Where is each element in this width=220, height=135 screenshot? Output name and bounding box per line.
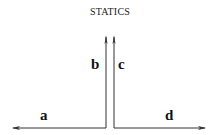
left-arrow-pair <box>13 37 106 128</box>
label-d: d <box>165 108 173 123</box>
label-c: c <box>118 57 125 72</box>
label-b: b <box>91 57 99 72</box>
right-arrow-pair <box>114 37 205 128</box>
arrow-lines <box>0 0 220 135</box>
line-a-b <box>13 37 106 128</box>
statics-diagram: STATICS a b c d <box>0 0 220 135</box>
label-a: a <box>40 108 48 123</box>
line-c-d <box>114 37 205 128</box>
